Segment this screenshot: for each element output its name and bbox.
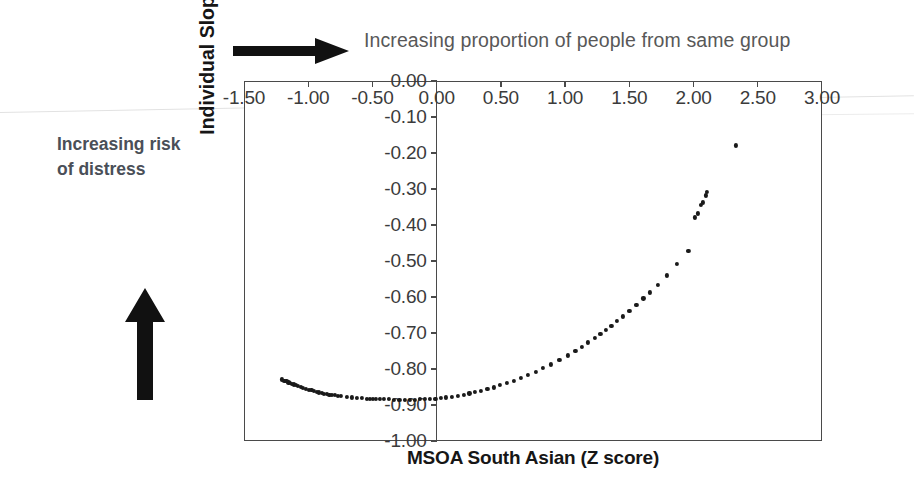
y-axis-tick xyxy=(431,296,437,297)
right-arrow-icon xyxy=(233,38,349,64)
figure-container: Increasing proportion of people from sam… xyxy=(0,0,914,500)
y-axis-tick-label: -0.60 xyxy=(369,286,427,308)
y-axis-tick xyxy=(431,260,437,261)
y-axis-title: Individual Slope xyxy=(196,0,219,160)
x-axis-title: MSOA South Asian (Z score) xyxy=(244,447,822,469)
y-axis-tick-label: 0.00 xyxy=(369,70,427,92)
y-axis-tick xyxy=(431,224,437,225)
y-axis-tick-label: -0.50 xyxy=(369,250,427,272)
y-axis-tick xyxy=(431,440,437,441)
x-axis-tick-label: -1.00 xyxy=(287,87,329,109)
y-axis-tick-label: -0.10 xyxy=(369,106,427,128)
y-axis-tick xyxy=(431,152,437,153)
y-axis-tick xyxy=(431,188,437,189)
top-annotation-label: Increasing proportion of people from sam… xyxy=(364,29,790,52)
x-axis-tick-label: 3.00 xyxy=(804,87,840,109)
x-axis-tick-label: 2.00 xyxy=(675,87,711,109)
y-axis-tick xyxy=(431,80,437,81)
x-axis-tick-label: 2.50 xyxy=(740,87,776,109)
up-arrow-icon xyxy=(125,288,165,400)
x-axis-tick-label: 0.50 xyxy=(483,87,519,109)
y-axis-tick xyxy=(431,116,437,117)
x-axis-tick-label: 1.50 xyxy=(611,87,647,109)
y-axis-tick xyxy=(431,368,437,369)
left-annotation-line2: of distress xyxy=(57,157,237,182)
y-axis-tick xyxy=(431,404,437,405)
y-axis-tick-label: -0.70 xyxy=(369,322,427,344)
y-axis-tick-label: -0.30 xyxy=(369,178,427,200)
y-axis-tick-label: -0.40 xyxy=(369,214,427,236)
y-axis-tick-label: -0.80 xyxy=(369,358,427,380)
y-axis-tick xyxy=(431,332,437,333)
x-axis-tick-label: -1.50 xyxy=(223,87,265,109)
x-axis-tick-label: 1.00 xyxy=(547,87,583,109)
plot-area xyxy=(244,81,822,441)
y-axis-tick-label: -0.20 xyxy=(369,142,427,164)
